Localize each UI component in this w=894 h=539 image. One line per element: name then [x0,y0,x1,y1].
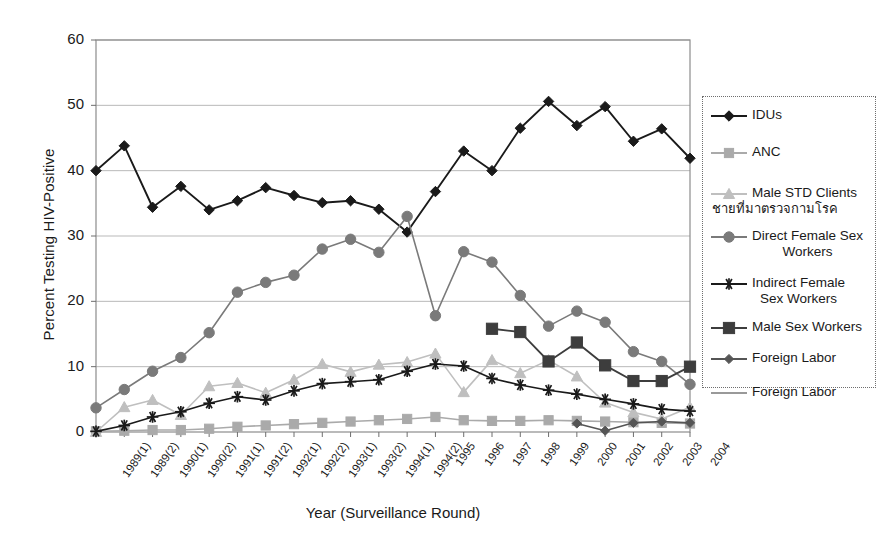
y-tick-label: 50 [50,95,84,112]
legend-label-line2: Sex Workers [752,291,845,307]
diamond-marker-icon [709,108,749,124]
legend-label: ANC [752,144,781,159]
legend-item: Indirect FemaleSex Workers [709,275,845,306]
y-tick-label: 10 [50,357,84,374]
y-tick-label: 20 [50,291,84,308]
legend-label: Foreign Labor [752,384,836,399]
legend-item: Male STD Clientsชายที่มาตรวจกามโรค [709,185,857,216]
asterisk-marker-icon [709,276,749,292]
legend-item: Foreign Labor [709,384,836,401]
legend-label: Male Sex Workers [752,319,862,334]
legend-item: Direct Female SexWorkers [709,228,863,259]
triangle-marker-icon [709,186,749,202]
hiv-surveillance-chart: Percent Testing HIV-Positive Year (Surve… [0,0,894,539]
circle-marker-icon [709,229,749,245]
legend-item: Foreign Labor [709,350,836,367]
legend-label-line2: Workers [752,244,863,260]
y-tick-label: 40 [50,161,84,178]
legend-item: IDUs [709,107,782,124]
legend-item: ANC [709,144,781,161]
y-tick-label: 0 [50,422,84,439]
square-large-marker-icon [709,320,749,336]
legend-label: Male STD Clients [752,185,857,200]
diamond-small-marker-icon [709,351,749,367]
legend-label-line2: ชายที่มาตรวจกามโรค [712,201,857,217]
legend-label: IDUs [752,107,782,122]
y-tick-label: 60 [50,30,84,47]
square-marker-icon [709,145,749,161]
chart-legend: IDUsANCMale STD Clientsชายที่มาตรวจกามโร… [702,96,876,388]
legend-label: Direct Female Sex [752,228,863,243]
legend-item: Male Sex Workers [709,319,862,336]
y-tick-label: 30 [50,226,84,243]
legend-label: Indirect Female [752,275,845,290]
none-marker-icon [709,385,749,401]
legend-label: Foreign Labor [752,350,836,365]
